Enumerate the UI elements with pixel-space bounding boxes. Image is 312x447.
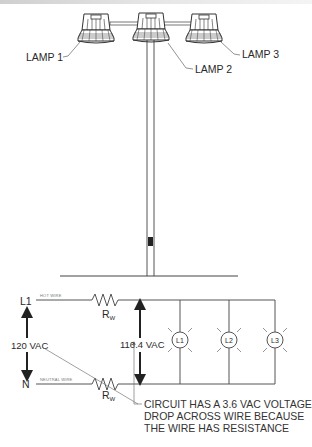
lamp-3-label: LAMP 3 — [242, 48, 279, 60]
lamp-3-leader — [221, 42, 240, 55]
light-pole-illustration: LAMP 1 LAMP 2 LAMP 3 — [26, 13, 279, 276]
callout-leader-source — [42, 347, 138, 404]
source-voltage-label: 120 VAC — [11, 340, 48, 351]
lamp-1-fixture — [78, 14, 114, 43]
hot-resistor-label: RW — [102, 308, 116, 321]
load-l1: L1 — [168, 300, 192, 384]
hot-resistor — [92, 294, 118, 306]
load-l3: L3 — [263, 300, 287, 384]
load-l3-label: L3 — [271, 337, 279, 344]
load-voltage-label: 116.4 VAC — [120, 339, 165, 350]
lamp-2-label: LAMP 2 — [195, 63, 232, 75]
neutral-wire-label: NEUTRAL WIRE — [40, 377, 73, 382]
circuit-schematic: L1 N HOT WIRE RW NEUTRAL WIRE RW 120 VAC… — [11, 293, 312, 434]
lamp-2-fixture — [133, 13, 169, 42]
lamp-2-leader — [168, 43, 193, 69]
lamp-1-leader — [63, 42, 80, 57]
hot-terminal-label: L1 — [20, 295, 32, 307]
load-l2-label: L2 — [225, 337, 233, 344]
load-l1-label: L1 — [176, 337, 184, 344]
voltage-drop-note: CIRCUIT HAS A 3.6 VAC VOLTAGE DROP ACROS… — [144, 398, 312, 434]
pole-access-panel — [148, 237, 153, 246]
load-l2: L2 — [217, 300, 241, 384]
lamp-1-label: LAMP 1 — [26, 51, 63, 63]
lamp-3-fixture — [186, 14, 222, 43]
hot-wire-label: HOT WIRE — [40, 293, 62, 298]
neutral-resistor-label: RW — [102, 389, 116, 402]
voltage-drop-diagram: LAMP 1 LAMP 2 LAMP 3 L1 N HOT WIRE RW NE… — [0, 0, 312, 447]
neutral-terminal-label: N — [22, 378, 30, 390]
